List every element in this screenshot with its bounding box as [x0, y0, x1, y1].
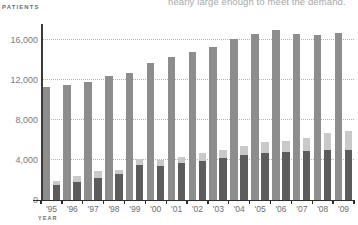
bar-donors-added [136, 159, 144, 166]
bar-waiting-list [126, 73, 134, 200]
bar-transplants [136, 165, 144, 200]
y-tick-label: 16,000 [2, 35, 38, 45]
bar-donors-added [345, 131, 353, 151]
bar-waiting-list [147, 63, 155, 200]
bar-waiting-list [293, 34, 301, 201]
bar-group [166, 20, 187, 200]
y-axis-tick-labels: 04,0008,00012,00016,000 [0, 20, 38, 200]
bar-group [250, 20, 271, 200]
x-tick-label: '05 [255, 204, 266, 214]
bar-transplants [73, 182, 81, 200]
x-tick-mark [270, 200, 271, 204]
bar-group [187, 20, 208, 200]
y-tick-label: 8,000 [2, 115, 38, 125]
bar-transplants [94, 178, 102, 200]
x-tick-mark [186, 200, 187, 204]
clipped-headline-text: nearly large enough to meet the demand. [168, 0, 358, 7]
y-axis-title: PATIENTS [2, 4, 40, 10]
bar-transplants [261, 153, 269, 200]
bar-group [83, 20, 104, 200]
bar-group [333, 20, 354, 200]
bar-donors-added [94, 171, 102, 179]
bar-waiting-list [189, 52, 197, 200]
bar-donors-added [324, 133, 332, 150]
x-tick-label: '04 [234, 204, 245, 214]
bar-transplants [53, 185, 61, 200]
bar-transplants [345, 150, 353, 200]
bar-donors-added [73, 176, 81, 182]
bar-donors-added [219, 150, 227, 158]
x-tick-mark [353, 200, 354, 204]
bar-transplants [199, 161, 207, 201]
bar-transplants [282, 152, 290, 200]
y-tick-label: 4,000 [2, 155, 38, 165]
bar-waiting-list [314, 35, 322, 201]
bar-donors-added [240, 146, 248, 155]
x-tick-mark [207, 200, 208, 204]
bar-donors-added [53, 181, 61, 185]
x-tick-mark [332, 200, 333, 204]
bar-group [62, 20, 83, 200]
bar-group [291, 20, 312, 200]
x-tick-label: '99 [129, 204, 140, 214]
bar-donors-added [199, 153, 207, 161]
bar-waiting-list [63, 85, 71, 200]
bar-donors-added [282, 141, 290, 153]
bar-waiting-list [272, 30, 280, 200]
y-tick-label: 12,000 [2, 75, 38, 85]
bar-group [41, 20, 62, 200]
bar-waiting-list [43, 87, 51, 200]
bar-transplants [303, 151, 311, 200]
x-tick-label: '09 [338, 204, 349, 214]
bar-waiting-list [105, 76, 113, 201]
x-tick-label: '03 [213, 204, 224, 214]
x-tick-mark [145, 200, 146, 204]
x-tick-mark [103, 200, 104, 204]
bar-transplants [115, 174, 123, 200]
x-tick-label: '95 [46, 204, 57, 214]
x-tick-label: '97 [88, 204, 99, 214]
bar-group [208, 20, 229, 200]
bar-group [312, 20, 333, 200]
x-tick-label: '01 [171, 204, 182, 214]
x-tick-mark [291, 200, 292, 204]
bar-group [145, 20, 166, 200]
bar-waiting-list [230, 39, 238, 200]
bar-waiting-list [209, 47, 217, 201]
x-tick-label: '96 [67, 204, 78, 214]
x-tick-label: '08 [317, 204, 328, 214]
bar-donors-added [115, 170, 123, 175]
x-tick-mark [40, 200, 41, 204]
bar-group [271, 20, 292, 200]
y-axis-line [41, 24, 43, 201]
x-tick-mark [124, 200, 125, 204]
plot-area [41, 20, 354, 200]
x-tick-label: '07 [296, 204, 307, 214]
bar-waiting-list [251, 34, 259, 200]
x-tick-label: '00 [150, 204, 161, 214]
x-tick-mark [82, 200, 83, 204]
x-axis-title: YEAR [38, 215, 58, 221]
x-tick-label: '98 [108, 204, 119, 214]
bar-donors-added [157, 160, 165, 166]
bar-group [104, 20, 125, 200]
bar-transplants [240, 155, 248, 201]
bar-transplants [324, 150, 332, 200]
bar-waiting-list [168, 57, 176, 201]
bar-transplants [219, 158, 227, 200]
x-tick-mark [312, 200, 313, 204]
x-tick-label: '02 [192, 204, 203, 214]
x-tick-mark [61, 200, 62, 204]
x-tick-mark [228, 200, 229, 204]
bar-group [229, 20, 250, 200]
x-tick-mark [166, 200, 167, 204]
x-tick-mark [249, 200, 250, 204]
bar-group [124, 20, 145, 200]
bar-waiting-list [84, 82, 92, 201]
bar-donors-added [178, 157, 186, 163]
bar-donors-added [261, 142, 269, 153]
bar-donors-added [303, 138, 311, 151]
bar-transplants [157, 166, 165, 201]
bar-transplants [178, 163, 186, 201]
x-tick-label: '06 [275, 204, 286, 214]
